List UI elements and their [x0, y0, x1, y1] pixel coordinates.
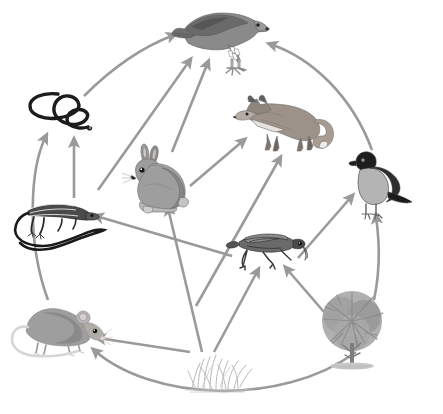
arrow-grass-to-grasshopper: [214, 270, 258, 352]
organism-snake[interactable]: [24, 88, 100, 136]
lizard-icon: [14, 197, 110, 259]
arrow-snake-to-hawk: [84, 35, 174, 96]
organism-rabbit[interactable]: [120, 142, 200, 218]
hawk-icon: [170, 3, 274, 81]
organism-hawk[interactable]: [170, 3, 274, 81]
grass-icon: [178, 349, 262, 395]
organism-mouse[interactable]: [10, 299, 114, 361]
organism-lizard[interactable]: [14, 197, 110, 259]
food-web-diagram: [0, 0, 443, 414]
organism-robin[interactable]: [338, 148, 416, 226]
robin-icon: [338, 148, 416, 226]
organism-grasshopper[interactable]: [223, 224, 309, 272]
arrow-grasshopper-to-lizard: [96, 216, 232, 256]
rabbit-icon: [120, 142, 200, 218]
organism-tree[interactable]: [307, 285, 397, 377]
tree-icon: [307, 285, 397, 377]
organism-fox[interactable]: [227, 90, 337, 156]
mouse-icon: [10, 299, 114, 361]
snake-icon: [24, 88, 100, 136]
organism-grass[interactable]: [178, 349, 262, 395]
fox-icon: [227, 90, 337, 156]
arrow-grass-to-rabbit: [168, 208, 202, 352]
grasshopper-icon: [223, 224, 309, 272]
